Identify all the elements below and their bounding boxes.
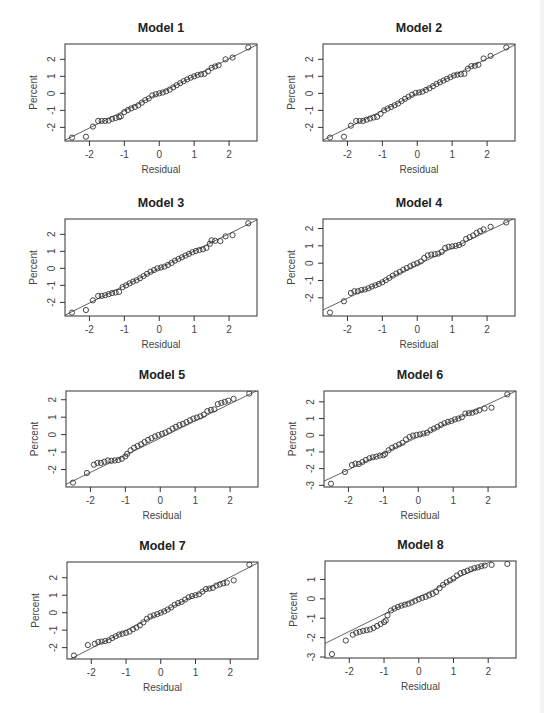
x-tick-label: 0 [156, 149, 162, 160]
x-axis-label: Residual [142, 339, 181, 350]
y-tick-label: -1 [46, 105, 57, 114]
x-axis-label: Residual [401, 510, 440, 521]
x-tick-label: 1 [450, 495, 456, 506]
panel-title: Model 8 [397, 538, 444, 552]
reference-line [65, 220, 257, 315]
panel-model-8: Model 8-2-1012-3-2-101ResidualPercent [288, 538, 516, 692]
data-point [489, 405, 494, 410]
x-tick-label: 2 [484, 149, 490, 160]
y-tick-label: -2 [304, 123, 315, 132]
plot-frame [66, 391, 258, 487]
y-tick-label: -2 [46, 298, 57, 307]
data-point [230, 233, 235, 238]
panel-model-7: Model 7-2-1012-2-1012ResidualPercent [30, 539, 258, 693]
y-axis-label: Percent [30, 593, 41, 628]
data-point [461, 569, 466, 574]
y-tick-label: 1 [306, 576, 317, 582]
panel-title: Model 4 [396, 196, 443, 210]
y-axis-label: Percent [286, 250, 297, 285]
x-axis-label: Residual [142, 164, 181, 175]
panel-title: Model 3 [138, 196, 185, 210]
y-tick-label: 1 [48, 592, 59, 598]
x-tick-label: 2 [485, 495, 491, 506]
data-point [375, 114, 380, 119]
data-point [102, 459, 107, 464]
data-point [465, 568, 470, 573]
data-points [71, 562, 252, 658]
data-point [83, 134, 88, 139]
panel-model-3: Model 3-2-1012-2-1012ResidualPercent [28, 196, 257, 350]
y-tick-label: -3 [305, 480, 316, 489]
data-point [202, 71, 207, 76]
panel-title: Model 7 [139, 539, 186, 553]
x-tick-label: 2 [485, 666, 491, 677]
y-axis-label: Percent [286, 75, 297, 110]
data-point [489, 562, 494, 567]
data-point [329, 652, 334, 657]
x-tick-label: -2 [86, 495, 95, 506]
data-point [328, 481, 333, 486]
x-tick-label: -1 [120, 149, 129, 160]
x-axis-label: Residual [143, 682, 182, 693]
y-tick-label: 0 [47, 431, 58, 437]
x-tick-label: 2 [226, 324, 232, 335]
y-axis-label: Percent [29, 422, 40, 457]
data-point [218, 239, 223, 244]
window-edge-strip [540, 0, 544, 713]
x-tick-label: -2 [85, 149, 94, 160]
x-tick-label: 0 [157, 495, 163, 506]
x-tick-label: -2 [87, 667, 96, 678]
x-tick-label: -1 [121, 495, 130, 506]
x-tick-label: -1 [378, 324, 387, 335]
x-tick-label: 2 [226, 149, 232, 160]
x-tick-label: 0 [414, 149, 420, 160]
plot-frame [323, 219, 515, 316]
x-tick-label: 1 [192, 495, 198, 506]
data-point [505, 561, 510, 566]
panel-title: Model 2 [396, 21, 443, 35]
y-tick-label: -1 [305, 447, 316, 456]
y-tick-label: 2 [47, 397, 58, 403]
y-tick-label: 0 [306, 596, 317, 602]
reference-line [66, 390, 258, 484]
data-point [205, 408, 210, 413]
data-points [329, 561, 510, 656]
y-tick-label: 1 [47, 414, 58, 420]
x-tick-label: 1 [191, 324, 197, 335]
qq-plot-grid: Model 1-2-1012-2-1012ResidualPercent Mod… [0, 0, 544, 713]
x-tick-label: 0 [414, 324, 420, 335]
y-tick-label: -2 [305, 464, 316, 473]
y-tick-label: -2 [304, 293, 315, 302]
y-tick-label: 0 [48, 609, 59, 615]
data-point [420, 595, 425, 600]
x-tick-label: -1 [122, 667, 131, 678]
data-point [385, 613, 390, 618]
data-point [159, 431, 164, 436]
data-point [425, 253, 430, 258]
reference-line [323, 218, 515, 310]
y-tick-label: 2 [304, 56, 315, 62]
data-point [98, 460, 103, 465]
data-point [462, 71, 467, 76]
y-tick-label: 0 [304, 90, 315, 96]
y-tick-label: 2 [48, 575, 59, 581]
data-point [224, 580, 229, 585]
x-tick-label: -2 [343, 324, 352, 335]
x-tick-label: -1 [379, 495, 388, 506]
x-axis-label: Residual [401, 681, 440, 692]
x-axis-label: Residual [143, 510, 182, 521]
panel-model-1: Model 1-2-1012-2-1012ResidualPercent [28, 21, 257, 175]
data-point [327, 310, 332, 315]
panel-model-5: Model 5-2-1012-2-1012ResidualPercent [29, 368, 258, 521]
data-points [328, 392, 509, 487]
x-tick-label: 1 [193, 667, 199, 678]
data-point [341, 134, 346, 139]
data-point [422, 255, 427, 260]
data-point [83, 307, 88, 312]
x-tick-label: 1 [449, 324, 455, 335]
y-tick-label: 2 [46, 56, 57, 62]
y-tick-label: -3 [306, 652, 317, 661]
x-axis-label: Residual [400, 164, 439, 175]
x-axis-label: Residual [400, 339, 439, 350]
y-tick-label: -1 [304, 276, 315, 285]
